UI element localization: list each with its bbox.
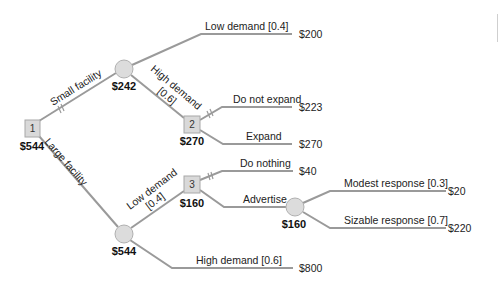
node-2-value: $270 [180, 135, 204, 147]
edge-do-not-expand [200, 107, 292, 120]
decision-node-1: 1 $544 [20, 120, 45, 152]
chance-node-large: $544 [112, 225, 137, 257]
label-sizable-response: Sizable response [0.7] [344, 214, 448, 226]
label-modest-response: Modest response [0.3] [344, 177, 448, 189]
node-1-value: $544 [20, 140, 45, 152]
payoff-small-low: $200 [299, 28, 323, 40]
payoff-expand: $270 [299, 138, 323, 150]
payoff-large-high: $800 [299, 262, 323, 274]
chance-small-value: $242 [112, 80, 136, 92]
chance-large-value: $544 [112, 245, 137, 257]
edge-small-low-demand [132, 34, 292, 65]
decision-tree: 1 $544 $242 2 $270 $544 3 $160 $160 Smal… [0, 0, 502, 287]
chance-circle-icon [115, 60, 133, 78]
node-2-number: 2 [189, 119, 195, 130]
chance-circle-icon [115, 225, 133, 243]
chance-advertise-value: $160 [282, 218, 306, 230]
label-small-high-demand: High demand [149, 62, 205, 111]
payoff-sizable: $220 [448, 222, 472, 234]
label-do-nothing: Do nothing [240, 157, 291, 169]
chance-circle-icon [286, 198, 304, 216]
payoff-do-not-expand: $223 [299, 101, 323, 113]
label-advertise: Advertise [243, 193, 287, 205]
node-1-number: 1 [30, 123, 36, 134]
edge-do-nothing [200, 171, 293, 180]
payoff-do-nothing: $40 [299, 165, 317, 177]
node-3-value: $160 [180, 197, 204, 209]
label-expand: Expand [246, 130, 282, 142]
node-3-number: 3 [189, 179, 195, 190]
tree-edges [39, 34, 446, 268]
payoff-modest: $20 [448, 185, 466, 197]
label-small-low-demand: Low demand [0.4] [205, 20, 289, 32]
edge-modest-response [303, 191, 446, 203]
label-large-high-demand: High demand [0.6] [196, 254, 282, 266]
label-do-not-expand: Do not expand [233, 93, 301, 105]
label-large-facility: Large facility [42, 135, 90, 188]
label-small-facility: Small facility [48, 66, 104, 107]
